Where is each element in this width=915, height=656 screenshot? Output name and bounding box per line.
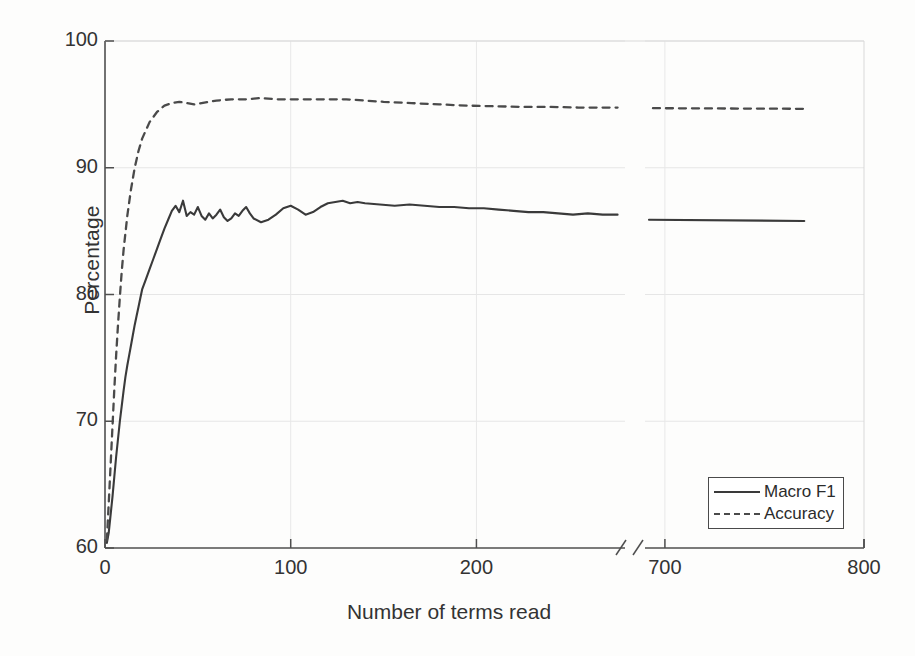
series-line-macro-f1-tail-	[649, 220, 804, 221]
legend-swatch-dashed-line	[714, 508, 760, 520]
figure-chart-percentage-vs-terms-read: Percentage Number of terms read 60708090…	[0, 0, 915, 656]
legend-entry-accuracy: Accuracy	[714, 503, 842, 525]
axis-break-slash-right	[633, 540, 643, 555]
series-line-accuracy	[107, 98, 618, 540]
legend-entry-macro-f1: Macro F1	[714, 481, 842, 503]
series-line-accuracy-tail-	[653, 108, 804, 109]
series-line-macro-f1	[107, 201, 618, 543]
legend-label-accuracy: Accuracy	[764, 504, 834, 524]
legend-label-macro-f1: Macro F1	[764, 482, 836, 502]
legend: Macro F1 Accuracy	[708, 477, 844, 529]
plot-area	[0, 0, 915, 656]
legend-swatch-solid-line	[714, 486, 760, 498]
